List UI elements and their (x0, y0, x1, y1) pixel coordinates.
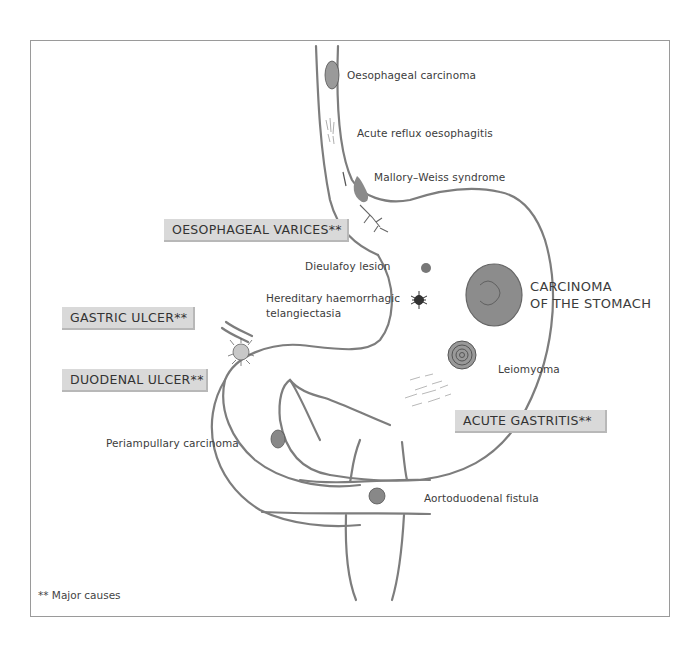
duodenum-horizontal-bottom (262, 512, 430, 514)
label-dieulafoy: Dieulafoy lesion (305, 260, 391, 272)
aorta-left (350, 440, 360, 482)
aorta-right (402, 442, 407, 480)
oesophageal-carcinoma-lesion (325, 61, 339, 89)
mallory-weiss-tear (354, 176, 368, 202)
stomach-lesser-curve (223, 255, 392, 486)
label-hht-line1: Hereditary haemorrhagic (266, 292, 400, 304)
label-hht-line2: telangiectasia (266, 307, 341, 319)
label-oesophageal-carcinoma: Oesophageal carcinoma (347, 69, 476, 81)
varices-vessels (360, 205, 388, 232)
aortoduodenal-fistula-lesion (369, 488, 385, 504)
reflux-oesophagitis-marks (326, 118, 334, 144)
gastric-carcinoma-mass (466, 264, 522, 326)
major-cause-gastric-ulcer: GASTRIC ULCER** (62, 307, 195, 330)
label-carcinoma-line2: OF THE STOMACH (530, 295, 651, 312)
label-mallory-weiss: Mallory–Weiss syndrome (374, 171, 505, 183)
label-acute-reflux-oesophagitis: Acute reflux oesophagitis (357, 127, 493, 139)
telangiectasia-lesion (411, 291, 427, 309)
duodenal-ulcer-lesion (228, 338, 254, 366)
label-carcinoma-line1: CARCINOMA (530, 278, 651, 295)
label-leiomyoma: Leiomyoma (498, 363, 560, 375)
stomach-greater-curve (330, 240, 553, 481)
major-cause-duodenal-ulcer: DUODENAL ULCER** (62, 369, 208, 392)
duodenum-inner-curve (279, 380, 390, 475)
label-periampullary-carcinoma: Periampullary carcinoma (106, 437, 239, 449)
dieulafoy-lesion (421, 263, 431, 273)
gastritis-marks (405, 374, 451, 406)
label-carcinoma-stomach: CARCINOMA OF THE STOMACH (530, 278, 651, 312)
label-aortoduodenal-fistula: Aortoduodenal fistula (424, 492, 539, 504)
aorta-lower-left (346, 515, 356, 600)
major-cause-oesophageal-varices: OESOPHAGEAL VARICES** (164, 219, 349, 242)
footnote-major-causes: ** Major causes (38, 589, 121, 601)
aorta-lower-right (392, 515, 404, 600)
leiomyoma-mass (448, 341, 476, 369)
periampullary-carcinoma-lesion (271, 430, 285, 448)
major-cause-acute-gastritis: ACUTE GASTRITIS** (455, 410, 607, 433)
